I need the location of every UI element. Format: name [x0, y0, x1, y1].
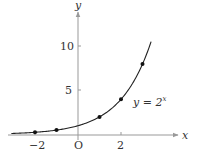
y-tick-label-10: 10	[60, 40, 74, 53]
origin-label: O	[74, 139, 83, 152]
data-point	[141, 62, 145, 66]
y-tick-label-5: 5	[65, 84, 72, 97]
function-label: y = 2x	[132, 95, 166, 109]
y-axis-label: y	[74, 0, 82, 12]
exponential-chart: y x O −2 2 5 10 y = 2x	[0, 0, 201, 168]
x-tick-label-neg2: −2	[29, 139, 45, 152]
data-point	[55, 128, 59, 132]
data-point	[119, 97, 123, 101]
function-label-base: y = 2	[132, 96, 162, 109]
data-point	[33, 130, 37, 134]
data-points	[33, 62, 145, 134]
x-axis-label: x	[182, 129, 189, 142]
function-label-exponent: x	[162, 95, 166, 103]
data-point	[98, 115, 102, 119]
exponential-curve	[11, 42, 151, 134]
x-tick-label-2: 2	[117, 139, 124, 152]
